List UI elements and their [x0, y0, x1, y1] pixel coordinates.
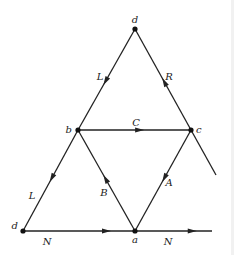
edge-label: R	[164, 71, 173, 82]
arrowhead-icon	[101, 174, 110, 184]
node-dot	[75, 127, 80, 132]
edge-tail_c	[191, 130, 216, 175]
arrowhead-icon	[188, 228, 197, 233]
node-label: d	[12, 220, 18, 231]
edge-label: N	[42, 236, 53, 247]
edges-layer: LRCLBANN	[23, 29, 216, 247]
edge-label: A	[164, 177, 172, 188]
edge-N_right: N	[135, 228, 212, 247]
edge-C: C	[78, 117, 191, 133]
edge-R: R	[135, 29, 191, 130]
edge-label: B	[99, 187, 107, 198]
edge-label: N	[163, 236, 174, 247]
node-d_bottom: d	[12, 220, 26, 234]
node-label: a	[132, 234, 138, 245]
node-label: d	[132, 14, 138, 25]
edge-label: L	[28, 190, 36, 201]
edge-L_top: L	[78, 29, 135, 130]
node-dot	[132, 228, 137, 233]
node-dot	[132, 26, 137, 31]
arrowhead-icon	[135, 127, 144, 132]
edge-L_bottom: L	[23, 130, 78, 231]
node-d_top: d	[132, 14, 138, 32]
node-dot	[20, 228, 25, 233]
edge-label: C	[132, 117, 140, 128]
directed-graph-diagram: LRCLBANN dbcda	[0, 0, 234, 255]
edge-B: B	[78, 130, 135, 231]
node-b: b	[66, 124, 81, 135]
node-a: a	[132, 228, 138, 245]
node-label: b	[66, 124, 72, 135]
node-c: c	[188, 124, 202, 135]
node-label: c	[196, 124, 202, 135]
arrowhead-icon	[47, 173, 56, 183]
edge-line	[191, 130, 216, 175]
edge-N_left: N	[23, 228, 135, 247]
edge-A: A	[135, 130, 191, 231]
edge-label: L	[96, 71, 104, 82]
arrowhead-icon	[102, 228, 111, 233]
node-dot	[188, 127, 193, 132]
